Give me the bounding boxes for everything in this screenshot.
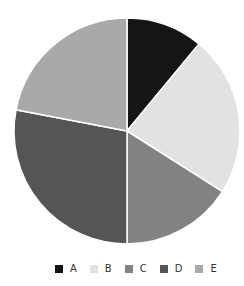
legend-item-a: A [55,263,77,275]
legend-item-d: D [160,263,183,275]
pie-chart [0,0,244,260]
legend-swatch-a [55,265,63,273]
legend-label-a: A [70,263,77,275]
legend-label-e: E [210,263,216,275]
legend-label-c: C [140,263,147,275]
legend-item-b: B [90,263,112,275]
legend-label-d: D [175,263,183,275]
legend-swatch-c [125,265,133,273]
legend-swatch-b [90,265,98,273]
legend-swatch-d [160,265,168,273]
legend-item-e: E [195,263,216,275]
legend-item-c: C [125,263,147,275]
pie-slice-d [14,110,127,244]
legend-label-b: B [105,263,112,275]
chart-legend: A B C D E [55,263,230,275]
legend-swatch-e [195,265,203,273]
